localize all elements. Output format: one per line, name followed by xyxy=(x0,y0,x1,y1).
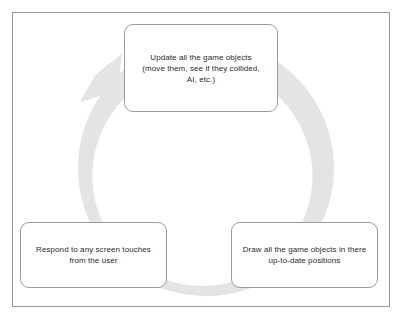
diagram-canvas: Update all the game objects (move them, … xyxy=(0,0,406,322)
node-respond-label: Respond to any screen touches from the u… xyxy=(30,244,157,266)
node-update-game-objects[interactable]: Update all the game objects (move them, … xyxy=(124,24,278,112)
node-draw-game-objects[interactable]: Draw all the game objects in there up-to… xyxy=(231,222,378,288)
node-respond-to-touches[interactable]: Respond to any screen touches from the u… xyxy=(20,222,167,288)
node-draw-label: Draw all the game objects in there up-to… xyxy=(237,244,373,266)
node-update-label: Update all the game objects (move them, … xyxy=(136,52,265,85)
